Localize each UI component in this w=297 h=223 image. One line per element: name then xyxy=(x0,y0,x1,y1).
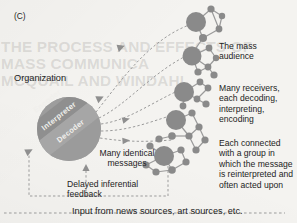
cluster-2 xyxy=(183,45,220,79)
cluster-node xyxy=(216,26,223,33)
cluster-hub-node xyxy=(183,47,202,66)
cluster-node xyxy=(210,71,217,78)
cluster-node xyxy=(205,85,212,92)
cluster-node xyxy=(201,136,208,143)
cluster-node xyxy=(188,109,195,116)
cluster-node xyxy=(168,166,176,174)
panel-letter: (C) xyxy=(14,11,26,21)
cluster-node xyxy=(202,100,209,107)
arrowhead-msg-2 xyxy=(95,94,105,103)
cluster-node xyxy=(207,5,214,12)
cluster-hub-node xyxy=(166,110,186,130)
label-each-connected: Each connected with a group in which the… xyxy=(219,138,293,190)
label-many-identical-messages: Many identical messages xyxy=(96,148,158,169)
arrowhead-msg-3 xyxy=(122,117,131,124)
cluster-node xyxy=(177,146,184,153)
cluster-node xyxy=(199,34,207,42)
label-organization: Organization xyxy=(14,73,66,83)
cluster-hub-node xyxy=(186,12,206,32)
label-delayed-inferential-feedback: Delayed inferential feedback xyxy=(67,179,138,200)
cluster-node xyxy=(180,103,187,110)
cluster-node xyxy=(205,64,212,71)
cluster-node xyxy=(195,123,202,130)
cluster-node xyxy=(155,135,162,142)
cluster-node xyxy=(185,132,192,139)
cluster-node xyxy=(194,68,201,75)
cluster-node xyxy=(152,168,159,175)
cluster-node xyxy=(197,79,204,86)
cluster-node xyxy=(168,132,176,140)
arrowhead-msg-1 xyxy=(117,43,126,52)
cluster-node xyxy=(192,146,199,153)
cluster-node xyxy=(194,96,201,103)
label-many-receivers: Many receivers, each decoding, interpret… xyxy=(219,83,280,125)
cluster-node xyxy=(182,158,189,165)
arrowhead-feedback-up xyxy=(82,164,89,171)
cluster-3 xyxy=(174,79,211,110)
cluster-hub-node xyxy=(174,82,194,102)
arrowhead-feedback-left xyxy=(24,147,34,157)
cluster-node xyxy=(219,13,225,19)
message-arrow-4 xyxy=(101,114,176,131)
label-mass-audience: The mass audience xyxy=(219,41,257,62)
figure-panel: THE PROCESS AND EFFECTS OF MASS COMMUNIC… xyxy=(0,0,297,223)
label-input-from-sources: Input from news sources, art sources, et… xyxy=(72,206,243,216)
cluster-node xyxy=(206,45,213,52)
